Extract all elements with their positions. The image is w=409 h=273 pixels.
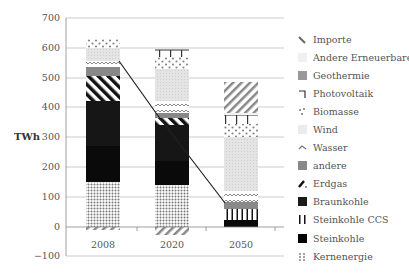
legend-item-geothermie: Geothermie: [298, 66, 409, 84]
segment-andere: [86, 67, 120, 76]
legend-item-wind: Wind: [298, 120, 409, 138]
legend-item-importe: Importe: [298, 30, 409, 48]
segment-erdgas: [86, 76, 120, 101]
segment-steinkohle-ccs: [224, 209, 258, 220]
legend-item-biomasse: Biomasse: [298, 102, 409, 120]
dark-swatch-icon: [298, 197, 307, 206]
segment-braunkohle: [86, 101, 120, 146]
light-gray-swatch-icon: [298, 53, 307, 62]
y-tick-500: 500: [42, 72, 60, 83]
bar-2050: [224, 82, 258, 227]
light-dotted-swatch-icon: [298, 125, 307, 134]
black-swatch-icon: [298, 234, 307, 243]
diagonal-stripes-icon: [298, 35, 307, 44]
segment-kernenergie: [155, 185, 189, 227]
wave-icon: [298, 143, 307, 152]
x-tick-2050: 2050: [229, 239, 253, 250]
legend-item-steinkohle: Steinkohle: [298, 229, 409, 247]
y-axis-label: TWh: [14, 131, 41, 142]
mid-gray-swatch-icon: [298, 161, 307, 170]
bar-2020: [155, 50, 189, 235]
segment-importe: [86, 227, 120, 230]
bar-2008: [86, 39, 120, 230]
segment-biomasse: [86, 39, 120, 48]
segment-steinkohle: [224, 220, 258, 227]
segment-steinkohle: [155, 161, 189, 185]
gray-swatch-icon: [298, 71, 307, 80]
segment-wind: [224, 137, 258, 191]
y-tick-0: 0: [54, 221, 60, 232]
y-tick-400: 400: [42, 101, 60, 112]
legend-item-wasser: Wasser: [298, 139, 409, 157]
legend-item-andere-erneuerbare: Andere Erneuerbare: [298, 48, 409, 66]
y-axis: 700 600 500 400 300 200 100 0 −100 TWh: [14, 12, 66, 261]
vertical-bars-icon: [298, 215, 307, 224]
segment-wasser: [224, 191, 258, 202]
x-tick-2008: 2008: [91, 239, 115, 250]
legend-item-photovoltaik: Photovoltaik: [298, 84, 409, 102]
segment-importe: [155, 227, 189, 235]
segment-wind: [155, 69, 189, 101]
legend-item-kernenergie: Kernenergie: [298, 247, 409, 265]
segment-photovoltaik: [155, 50, 189, 57]
segment-wasser: [155, 101, 189, 113]
y-tick-200: 200: [42, 161, 60, 172]
segment-importe: [224, 82, 258, 113]
legend: Importe Andere Erneuerbare Geothermie Ph…: [298, 30, 409, 265]
segment-andere: [224, 202, 258, 209]
bold-stripes-icon: [298, 179, 307, 188]
y-tick-100: 100: [42, 191, 60, 202]
y-tick-minus-100: −100: [34, 250, 60, 261]
dots-icon: [298, 107, 307, 116]
dot-grid-icon: [298, 252, 307, 261]
segment-photovoltaik: [224, 115, 258, 124]
segment-wind: [86, 48, 120, 61]
segment-braunkohle: [155, 125, 189, 161]
legend-item-andere: andere: [298, 157, 409, 175]
segment-biomasse: [155, 57, 189, 69]
segment-andere: [155, 113, 189, 118]
y-tick-300: 300: [42, 131, 60, 142]
legend-item-erdgas: Erdgas: [298, 175, 409, 193]
y-tick-600: 600: [42, 42, 60, 53]
bracket-lines-icon: [298, 89, 307, 98]
segment-steinkohle: [86, 146, 120, 182]
segment-biomasse: [224, 124, 258, 137]
legend-item-braunkohle: Braunkohle: [298, 193, 409, 211]
segment-wasser: [86, 61, 120, 67]
segment-kernenergie: [86, 182, 120, 227]
y-tick-700: 700: [42, 12, 60, 23]
segment-andere-erneuerbare: [224, 113, 258, 115]
x-tick-2020: 2020: [160, 239, 184, 250]
legend-item-steinkohle-ccs: Steinkohle CCS: [298, 211, 409, 229]
